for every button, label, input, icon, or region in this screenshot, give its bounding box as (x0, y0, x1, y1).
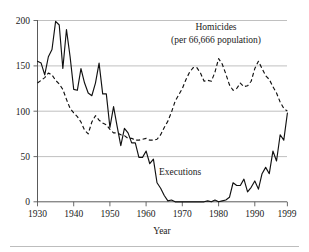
homicides-executions-chart: 0 50 100 150 200 1930 1940 1950 1960 197… (0, 0, 309, 252)
x-tick-label-1960: 1960 (137, 209, 156, 219)
x-tick-label-1980: 1980 (209, 209, 228, 219)
x-tick-labels: 1930 1940 1950 1960 1970 1980 1990 1999 (28, 209, 297, 219)
x-tick-label-1999: 1999 (278, 209, 297, 219)
y-tick-label-200: 200 (16, 16, 31, 26)
y-tick-label-50: 50 (21, 152, 31, 162)
homicides-annotation-line1: Homicides (195, 22, 236, 32)
x-axis-title: Year (153, 226, 171, 236)
y-tick-label-0: 0 (25, 197, 30, 207)
homicides-annotation: Homicides (per 66,666 population) (171, 22, 261, 46)
x-tick-label-1950: 1950 (100, 209, 119, 219)
x-tick-label-1940: 1940 (64, 209, 83, 219)
homicides-annotation-line2: (per 66,666 population) (171, 35, 261, 46)
y-tick-labels: 0 50 100 150 200 (16, 16, 31, 207)
series-homicides-line (38, 59, 288, 141)
x-tick-label-1970: 1970 (173, 209, 192, 219)
y-tick-marks (34, 21, 38, 202)
x-tick-label-1990: 1990 (245, 209, 264, 219)
x-tick-label-1930: 1930 (28, 209, 47, 219)
y-tick-label-100: 100 (16, 107, 31, 117)
x-tick-marks (38, 202, 288, 207)
y-tick-label-150: 150 (16, 61, 31, 71)
executions-annotation: Executions (159, 167, 202, 177)
chart-svg: 0 50 100 150 200 1930 1940 1950 1960 197… (0, 0, 309, 252)
